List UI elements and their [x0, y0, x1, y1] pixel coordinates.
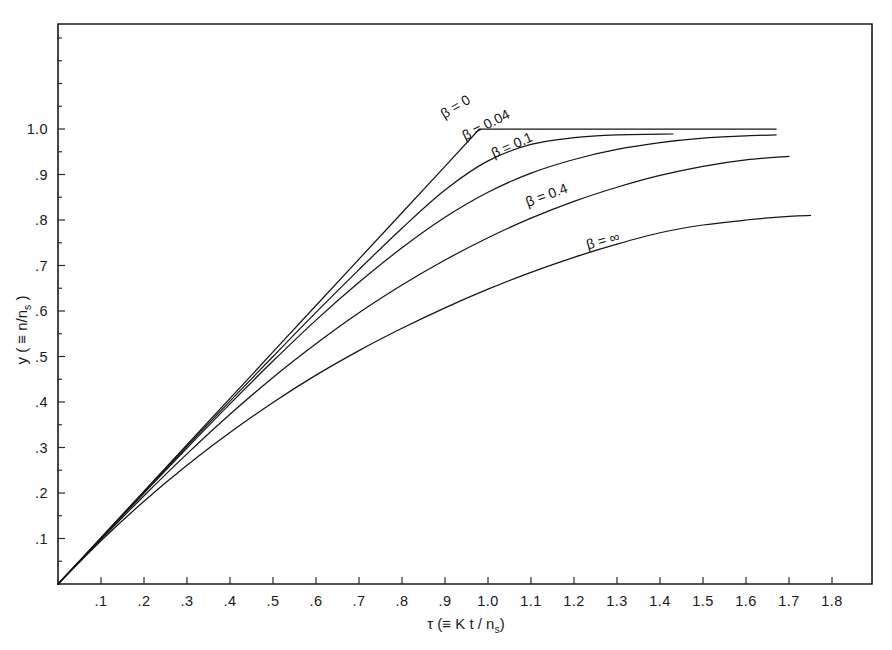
x-tick-label-17: 1.8: [821, 593, 842, 609]
x-tick-label-6: .7: [353, 593, 366, 609]
x-tick-label-0: .1: [95, 593, 108, 609]
chart-svg: .1.2.3.4.5.6.7.8.91.01.11.21.31.41.51.61…: [0, 0, 892, 650]
x-axis-title: τ (≡ K t / ns): [427, 615, 504, 635]
x-tick-label-12: 1.3: [606, 593, 627, 609]
x-tick-label-11: 1.2: [563, 593, 584, 609]
y-tick-label-2: .8: [35, 212, 48, 228]
x-tick-label-9: 1.0: [477, 593, 498, 609]
y-tick-label-4: .6: [35, 303, 48, 319]
y-tick-label-1: .9: [35, 167, 48, 183]
curve-series-2: [58, 135, 776, 584]
y-axis-title: y ( ≡ n/ns ): [13, 295, 33, 364]
x-tick-label-15: 1.6: [735, 593, 756, 609]
x-tick-label-16: 1.7: [778, 593, 799, 609]
curve-label-b004: β = 0.04: [459, 106, 512, 144]
y-tick-label-8: .2: [35, 485, 48, 501]
y-tick-label-7: .3: [35, 440, 48, 456]
data-curves: [58, 129, 811, 584]
x-tick-label-3: .4: [224, 593, 237, 609]
y-tick-label-5: .5: [35, 349, 48, 365]
curve-label-group-2: β = 0.1: [489, 129, 535, 161]
y-tick-label-6: .4: [35, 394, 48, 410]
x-tick-label-5: .6: [310, 593, 323, 609]
curve-series-4: [58, 215, 811, 584]
y-tick-label-0: 1.0: [27, 121, 48, 137]
x-tick-label-13: 1.4: [649, 593, 670, 609]
x-axis-title-end: ): [500, 615, 505, 632]
curve-label-b01: β = 0.1: [489, 129, 535, 161]
curve-series-0: [58, 129, 776, 584]
x-tick-label-2: .3: [181, 593, 194, 609]
curve-label-group-0: β = 0: [438, 91, 474, 121]
curve-series-1: [58, 134, 673, 584]
y-axis-title-end: ): [13, 295, 30, 304]
x-tick-label-7: .8: [396, 593, 409, 609]
x-axis-title-text: τ (≡ K t / n: [427, 615, 494, 632]
curve-series-3: [58, 156, 789, 584]
curve-label-group-1: β = 0.04: [459, 106, 512, 144]
y-axis-title-text: y ( ≡ n/n: [13, 310, 30, 365]
y-tick-label-3: .7: [35, 258, 48, 274]
x-tick-label-10: 1.1: [520, 593, 541, 609]
curve-label-b0: β = 0: [438, 91, 474, 121]
curve-labels: β = 0β = 0.04β = 0.1β = 0.4β = ∞: [438, 91, 622, 252]
x-tick-label-1: .2: [138, 593, 151, 609]
x-tick-label-8: .9: [439, 593, 452, 609]
x-tick-label-14: 1.5: [692, 593, 713, 609]
svg-text:y ( ≡ n/ns ): y ( ≡ n/ns ): [13, 295, 33, 364]
svg-text:τ (≡ K t / ns): τ (≡ K t / ns): [427, 615, 504, 635]
x-tick-label-4: .5: [267, 593, 280, 609]
y-tick-label-9: .1: [35, 531, 48, 547]
figure-container: .1.2.3.4.5.6.7.8.91.01.11.21.31.41.51.61…: [0, 0, 892, 650]
x-axis-tick-labels: .1.2.3.4.5.6.7.8.91.01.11.21.31.41.51.61…: [95, 593, 843, 609]
